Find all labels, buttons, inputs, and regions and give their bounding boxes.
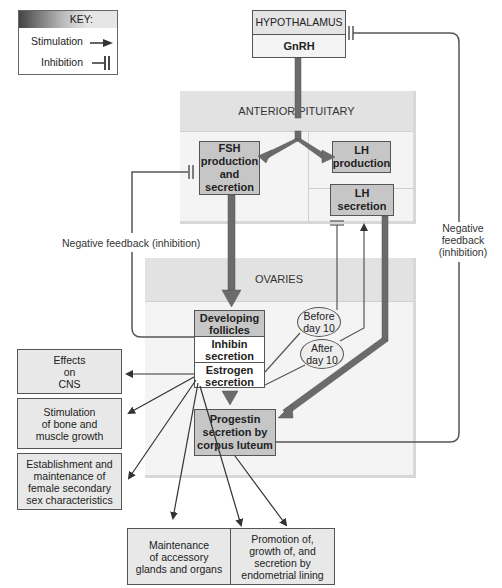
ovaries-body (145, 302, 413, 475)
key-inhibition: Inhibition (41, 56, 83, 68)
ovaries-title: OVARIES (145, 258, 413, 302)
pituitary-divider-v (308, 132, 309, 221)
anterior-pituitary-title: ANTERIOR PITUITARY (180, 91, 413, 132)
key-stimulation: Stimulation (31, 35, 83, 47)
inhibition-bar-icon (91, 55, 115, 71)
lh-production-box: LH production (332, 141, 391, 173)
progestin-box: Progestin secretion by corpus luteum (194, 409, 276, 456)
estrogen-box: Estrogen secretion (195, 363, 264, 387)
effects-glands-box: Maintenance of accessory glands and orga… (127, 528, 231, 585)
negative-feedback-right-label: Negative feedback (inhibition) (432, 222, 494, 258)
fsh-box: FSH production and secretion (199, 141, 260, 195)
hypothalamus-title: HYPOTHALAMUS (253, 11, 345, 35)
key-title: KEY: (19, 11, 117, 28)
gnrh-label: GnRH (253, 35, 345, 58)
key-inhibition-label: Inhibition (41, 56, 83, 68)
negative-feedback-left-label: Negative feedback (inhibition) (60, 237, 202, 249)
before-day10-oval: Before day 10 (297, 307, 341, 337)
follicles-stack: Developing follicles Inhibin secretion E… (194, 310, 265, 388)
after-day10-oval: After day 10 (300, 339, 344, 369)
key-stimulation-label: Stimulation (31, 35, 83, 47)
effects-endometrial-box: Promotion of, growth of, and secretion b… (230, 528, 335, 585)
ovaries-region: OVARIES (145, 258, 416, 478)
inhibin-box: Inhibin secretion (195, 337, 264, 363)
effects-cns-box: Effects on CNS (17, 349, 122, 394)
developing-follicles-box: Developing follicles (195, 311, 264, 337)
key-legend: KEY: Stimulation Inhibition (18, 10, 118, 75)
hypothalamus-box: HYPOTHALAMUS GnRH (252, 10, 346, 58)
lh-secretion-box: LH secretion (330, 184, 394, 216)
stimulation-arrow-icon (89, 37, 115, 49)
effects-sex-box: Establishment and maintenance of female … (17, 453, 122, 510)
effects-bone-box: Stimulation of bone and muscle growth (17, 398, 122, 449)
